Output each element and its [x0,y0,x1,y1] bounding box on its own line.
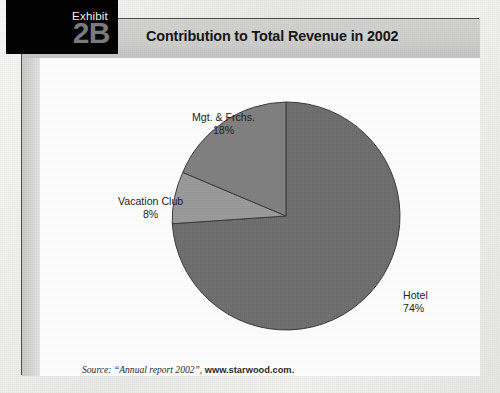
source-note-prefix: Source: “Annual report 2002”, [82,364,205,375]
exhibit-card: Contribution to Total Revenue in 2002 Mg… [21,18,479,375]
pie-label-vacation-club-pct: 8% [118,208,183,221]
pie-label-mgt-frchs: Mgt. & Frchs. 18% [192,111,255,137]
scanned-page: Contribution to Total Revenue in 2002 Mg… [0,0,500,393]
chart-area: Mgt. & Frchs. 18% Vacation Club 8% Hotel… [40,58,480,376]
pie-label-mgt-frchs-name: Mgt. & Frchs. [192,111,255,123]
pie-label-mgt-frchs-pct: 18% [192,124,255,137]
pie-label-vacation-club: Vacation Club 8% [118,195,183,221]
pie-label-hotel-name: Hotel [403,289,428,301]
source-note-url: www.starwood.com. [205,365,295,375]
source-note: Source: “Annual report 2002”, www.starwo… [82,364,294,375]
pie-label-hotel-pct: 74% [403,302,428,315]
pie-label-hotel: Hotel 74% [403,289,428,315]
left-margin-band [22,19,40,376]
page-title: Contribution to Total Revenue in 2002 [146,28,398,44]
exhibit-tab-number: 2B [73,18,110,48]
exhibit-tab: Exhibit 2B [6,0,118,54]
pie-label-vacation-club-name: Vacation Club [118,195,183,207]
